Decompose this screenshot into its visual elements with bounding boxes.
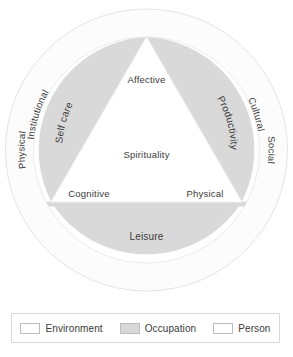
legend-item-environment[interactable]: Environment (20, 323, 102, 334)
person-label-affective: Affective (127, 74, 165, 85)
legend-swatch-person (213, 323, 233, 334)
environment-label-physical: Physical (15, 130, 27, 169)
peo-figure-svg: Institutional Cultural Physical Social (0, 0, 293, 300)
legend-swatch-environment (20, 323, 40, 334)
legend: Environment Occupation Person (11, 313, 280, 343)
legend-item-person[interactable]: Person (213, 323, 270, 334)
person-label-physical: Physical (187, 188, 224, 199)
occupation-label-leisure: Leisure (129, 231, 163, 242)
peo-diagram: Institutional Cultural Physical Social (0, 0, 293, 357)
legend-label-occupation: Occupation (145, 323, 197, 334)
person-label-cognitive: Cognitive (68, 188, 109, 199)
legend-item-occupation[interactable]: Occupation (120, 323, 197, 334)
environment-label-social: Social (266, 136, 278, 165)
legend-label-person: Person (238, 323, 270, 334)
legend-label-environment: Environment (45, 323, 102, 334)
legend-swatch-occupation (120, 323, 140, 334)
person-label-spirituality: Spirituality (123, 149, 169, 160)
